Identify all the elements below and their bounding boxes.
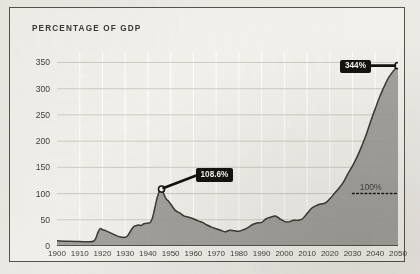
chart-title: PERCENTAGE OF GDP <box>32 24 141 33</box>
debt-area-fill <box>57 66 398 246</box>
y-axis-tick-label: 150 <box>24 162 50 172</box>
annotation-projection-endpoint: 344% <box>340 60 371 74</box>
x-axis-tick-label: 2050 <box>383 249 413 258</box>
y-axis-tick-label: 300 <box>24 84 50 94</box>
y-axis-tick-label: 350 <box>24 57 50 67</box>
plot-area <box>57 52 398 246</box>
y-axis-tick-label: 100 <box>24 189 50 199</box>
annotation-hundred-percent-label: 100% <box>360 182 382 192</box>
chart-frame: PERCENTAGE OF GDP 050100150200250300350 … <box>9 7 405 262</box>
annotation-ww2-peak: 108.6% <box>196 168 234 182</box>
y-axis-tick-label: 200 <box>24 136 50 146</box>
y-axis-tick-label: 250 <box>24 110 50 120</box>
chart-page: PERCENTAGE OF GDP 050100150200250300350 … <box>0 0 420 274</box>
chart-svg <box>57 52 398 246</box>
y-axis-tick-label: 50 <box>24 215 50 225</box>
